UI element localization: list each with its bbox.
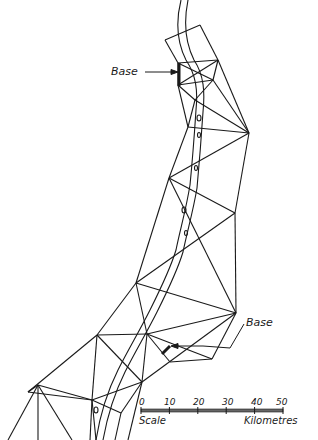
scale-bar: 0 10 20 30 40 50 Scale Kilometres (139, 397, 298, 426)
network-edge (169, 127, 188, 178)
triangulation-diagram: Base Base 0 10 20 30 40 50 Scale Kilomet… (0, 0, 318, 440)
network-edge (147, 313, 236, 334)
arrow-icon-top (145, 70, 178, 75)
network-edge (28, 335, 97, 392)
network-edge (97, 334, 147, 335)
network-edge (165, 25, 200, 40)
network-edge (92, 335, 97, 400)
network-edge (136, 213, 235, 283)
network-edge (90, 400, 92, 440)
network-edge (170, 359, 212, 362)
scale-tick-0: 0 (139, 397, 145, 407)
network-edge (115, 413, 121, 440)
network-edge (169, 178, 236, 313)
network-edge (97, 335, 142, 382)
network-edge (169, 178, 235, 213)
network-edge (200, 25, 218, 60)
base-line-bottom (162, 346, 170, 354)
network-edge (8, 385, 38, 440)
network-edge (235, 133, 249, 213)
scale-tick-10: 10 (164, 397, 176, 407)
network-edge (169, 133, 249, 178)
base-label-bottom: Base (246, 316, 273, 329)
scale-tick-40: 40 (251, 397, 263, 407)
network-edge (128, 382, 142, 440)
network-edge (178, 63, 213, 80)
scale-tick-20: 20 (193, 397, 205, 407)
network-edge (178, 60, 218, 63)
units-caption: Kilometres (244, 415, 298, 426)
scale-caption: Scale (139, 415, 166, 426)
network-edge (142, 334, 147, 382)
base-label-top: Base (111, 65, 138, 78)
network-edge (178, 85, 188, 127)
scale-tick-30: 30 (222, 397, 234, 407)
network-edge (235, 213, 236, 313)
network-edge (188, 100, 195, 127)
triangulation-network (8, 25, 249, 440)
network-edge (92, 400, 96, 440)
network-edge (136, 178, 169, 283)
network-edge (212, 313, 236, 359)
island-marker (197, 115, 201, 121)
network-edge (165, 40, 178, 63)
network-edge (213, 80, 249, 133)
arrow-icon-bottom (171, 324, 244, 349)
network-edge (97, 283, 136, 335)
network-edge (218, 60, 249, 133)
scale-tick-50: 50 (276, 397, 288, 407)
